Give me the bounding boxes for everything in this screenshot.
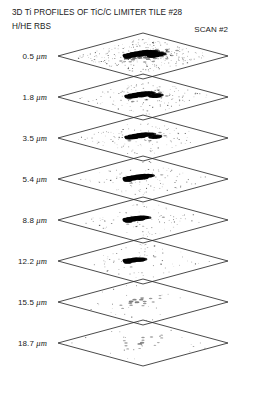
depth-label: 3.5 μm	[23, 133, 47, 143]
depth-plane	[58, 197, 228, 243]
depth-label: 5.4 μm	[23, 174, 47, 184]
ti-speckle-noise	[79, 285, 181, 323]
depth-label: 18.7 μm	[18, 338, 47, 348]
depth-value: 5.4	[23, 175, 37, 184]
ti-speckle-noise	[94, 244, 210, 278]
depth-plane	[58, 279, 228, 325]
depth-value: 3.5	[23, 134, 37, 143]
ti-signal-cluster	[123, 216, 166, 225]
depth-unit: μm	[36, 133, 47, 143]
depth-value: 18.7	[18, 339, 36, 348]
depth-unit: μm	[36, 338, 47, 348]
ti-signal-cluster	[124, 89, 168, 102]
depth-label: 8.8 μm	[23, 215, 47, 225]
depth-label: 0.5 μm	[23, 51, 47, 61]
depth-unit: μm	[36, 297, 47, 307]
depth-plane	[58, 238, 228, 284]
ti-signal-cluster	[123, 335, 164, 350]
ti-signal-cluster	[119, 49, 179, 63]
depth-value: 0.5	[23, 52, 37, 61]
depth-unit: μm	[36, 92, 47, 102]
depth-value: 15.5	[18, 298, 36, 307]
depth-plane	[58, 115, 228, 161]
depth-label: 15.5 μm	[18, 297, 47, 307]
depth-unit: μm	[36, 51, 47, 61]
ti-signal-cluster	[123, 256, 157, 267]
depth-plane	[58, 33, 228, 79]
figure-root: 3D Ti PROFILES OF TiC/C LIMITER TILE #28…	[0, 0, 274, 401]
depth-plane	[58, 320, 228, 366]
ti-signal-cluster	[123, 174, 164, 184]
depth-plane	[58, 156, 228, 202]
depth-label: 1.8 μm	[23, 92, 47, 102]
depth-plane	[58, 74, 228, 120]
depth-unit: μm	[36, 174, 47, 184]
depth-value: 1.8	[23, 93, 37, 102]
depth-unit: μm	[36, 256, 47, 266]
ti-signal-cluster	[119, 295, 161, 309]
ti-speckle-noise	[80, 83, 208, 116]
plane-outline	[58, 279, 228, 325]
depth-label: 12.2 μm	[18, 256, 47, 266]
depth-unit: μm	[36, 215, 47, 225]
depth-value: 8.8	[23, 216, 37, 225]
depth-value: 12.2	[18, 257, 36, 266]
